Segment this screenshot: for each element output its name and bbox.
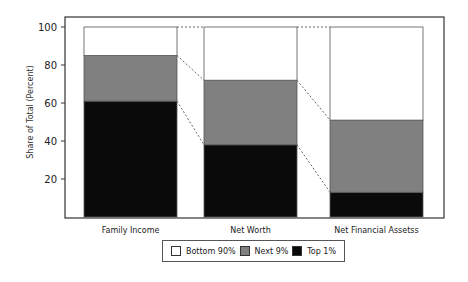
connector-line — [297, 80, 330, 120]
legend: Bottom 90% Next 9% Top 1% — [162, 240, 345, 262]
x-tick-label: Family Income — [102, 226, 160, 235]
legend-swatch — [240, 246, 250, 256]
x-tick-label: Net Worth — [230, 226, 270, 235]
legend-swatch — [171, 246, 181, 256]
bar-segment — [330, 120, 423, 192]
connector-line — [297, 145, 330, 193]
bar-segment — [84, 101, 177, 217]
y-tick-label: 80 — [44, 60, 57, 71]
x-tick-label: Net Financial Assetss — [334, 226, 418, 235]
bar-segment — [204, 27, 297, 80]
bar-segment — [84, 27, 177, 56]
connector-line — [177, 56, 204, 81]
x-axis-labels: Family IncomeNet WorthNet Financial Asse… — [102, 226, 419, 235]
bar-segment — [330, 192, 423, 217]
legend-swatch — [292, 246, 302, 256]
bar-segment — [204, 145, 297, 217]
connector-line — [177, 101, 204, 145]
legend-label: Bottom 90% — [186, 247, 236, 256]
legend-item-next-9: Next 9% — [240, 246, 289, 256]
legend-item-bottom-90: Bottom 90% — [171, 246, 236, 256]
y-axis-label: Share of Total (Percent) — [26, 65, 35, 158]
y-tick-label: 20 — [44, 174, 57, 185]
y-axis: 20406080100 — [38, 22, 65, 185]
y-tick-label: 60 — [44, 98, 57, 109]
bar-segment — [330, 27, 423, 120]
legend-label: Top 1% — [307, 247, 336, 256]
y-tick-label: 100 — [38, 22, 57, 33]
y-tick-label: 40 — [44, 136, 57, 147]
bars — [84, 27, 423, 217]
legend-item-top-1: Top 1% — [292, 246, 336, 256]
bar-segment — [204, 80, 297, 145]
bar-segment — [84, 56, 177, 102]
legend-label: Next 9% — [255, 247, 289, 256]
